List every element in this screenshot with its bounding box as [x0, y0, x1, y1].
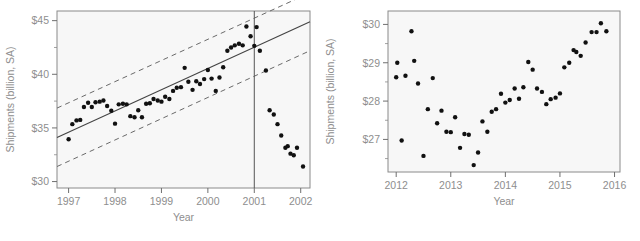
- data-point: [206, 68, 210, 72]
- data-point: [98, 99, 102, 103]
- data-point: [574, 50, 578, 54]
- data-point: [490, 110, 494, 114]
- data-point: [292, 153, 296, 157]
- data-point: [124, 102, 128, 106]
- y-tick-label: $28: [362, 95, 380, 107]
- data-point: [503, 100, 507, 104]
- data-point: [412, 59, 416, 63]
- x-tick-label: 2002: [289, 195, 313, 207]
- data-point: [264, 68, 268, 72]
- scatter-plot-left: $30$35$40$45199719981999200020012002Year…: [0, 0, 330, 241]
- data-point: [604, 29, 608, 33]
- x-tick-label: 1999: [150, 195, 174, 207]
- x-tick-label: 2012: [385, 179, 409, 191]
- x-tick-label: 1997: [57, 195, 81, 207]
- x-tick-label: 2016: [603, 179, 627, 191]
- data-point: [101, 98, 105, 102]
- data-point: [186, 80, 190, 84]
- data-point: [458, 146, 462, 150]
- data-point: [163, 95, 167, 99]
- y-tick-label: $45: [31, 14, 49, 26]
- data-point: [426, 107, 430, 111]
- data-point: [86, 101, 90, 105]
- x-tick-label: 2001: [243, 195, 267, 207]
- data-point: [109, 109, 113, 113]
- data-point: [254, 25, 258, 29]
- data-point: [113, 121, 117, 125]
- data-point: [198, 82, 202, 86]
- data-point: [494, 107, 498, 111]
- data-point: [117, 102, 121, 106]
- x-tick-label: 2013: [439, 179, 463, 191]
- data-point: [78, 118, 82, 122]
- y-tick-label: $30: [31, 175, 49, 187]
- data-point: [589, 30, 593, 34]
- data-point: [583, 40, 587, 44]
- data-point: [485, 130, 489, 134]
- data-point: [279, 133, 283, 137]
- data-point: [156, 98, 160, 102]
- x-axis-title: Year: [493, 195, 515, 207]
- data-point: [105, 104, 109, 108]
- data-point: [179, 85, 183, 89]
- data-point: [521, 85, 525, 89]
- data-point: [121, 102, 125, 106]
- data-point: [467, 133, 471, 137]
- data-point: [225, 48, 229, 52]
- data-point: [167, 97, 171, 101]
- data-point: [499, 92, 503, 96]
- data-point: [159, 99, 163, 103]
- data-point: [144, 102, 148, 106]
- data-point: [462, 132, 466, 136]
- data-point: [544, 102, 548, 106]
- data-point: [295, 146, 299, 150]
- data-point: [548, 97, 552, 101]
- x-tick-label: 2000: [196, 195, 220, 207]
- data-point: [540, 90, 544, 94]
- y-tick-label: $30: [362, 18, 380, 30]
- data-point: [421, 154, 425, 158]
- data-point: [252, 44, 256, 48]
- data-point: [140, 115, 144, 119]
- y-tick-label: $35: [31, 122, 49, 134]
- data-point: [444, 130, 448, 134]
- data-point: [233, 43, 237, 47]
- data-point: [409, 29, 413, 33]
- data-point: [403, 74, 407, 78]
- plot-frame: [388, 11, 620, 172]
- data-point: [182, 66, 186, 70]
- data-point: [272, 112, 276, 116]
- data-point: [209, 76, 213, 80]
- data-point: [594, 30, 598, 34]
- data-point: [244, 24, 248, 28]
- data-point: [248, 34, 252, 38]
- data-point: [567, 61, 571, 65]
- data-point: [435, 121, 439, 125]
- y-tick-label: $40: [31, 68, 49, 80]
- data-point: [508, 98, 512, 102]
- data-point: [171, 89, 175, 93]
- data-point: [82, 105, 86, 109]
- data-point: [132, 115, 136, 119]
- figure-root: $30$35$40$45199719981999200020012002Year…: [0, 0, 640, 241]
- data-point: [394, 75, 398, 79]
- data-point: [301, 164, 305, 168]
- data-point: [66, 137, 70, 141]
- data-point: [229, 45, 233, 49]
- data-point: [90, 105, 94, 109]
- data-point: [578, 54, 582, 58]
- data-point: [240, 43, 244, 47]
- y-tick-label: $29: [362, 57, 380, 69]
- data-point: [136, 108, 140, 112]
- data-point: [151, 97, 155, 101]
- data-point: [562, 65, 566, 69]
- x-tick-label: 2015: [548, 179, 572, 191]
- data-point: [439, 108, 443, 112]
- data-point: [526, 60, 530, 64]
- data-point: [476, 150, 480, 154]
- data-point: [175, 86, 179, 90]
- chart-panel-right: $27$28$29$3020122013201420152016YearShip…: [320, 0, 640, 241]
- data-point: [221, 65, 225, 69]
- data-point: [202, 77, 206, 81]
- x-tick-label: 1998: [103, 195, 127, 207]
